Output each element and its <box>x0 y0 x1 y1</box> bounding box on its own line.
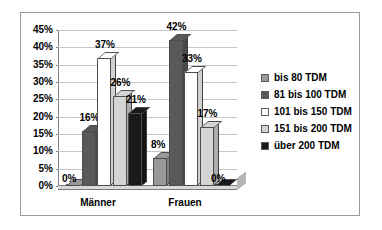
chart-frame: 0%5%10%15%20%25%30%35%40%45% 0%16%37%26%… <box>20 12 360 216</box>
bar[interactable] <box>153 158 167 186</box>
bar-value-label: 21% <box>126 95 146 105</box>
y-axis-tick-label: 35% <box>33 60 53 70</box>
bar-slot: 0% <box>215 30 229 186</box>
legend-swatch-icon <box>261 91 269 99</box>
y-axis-tick-label: 30% <box>33 77 53 87</box>
y-axis-tick-label: 0% <box>39 181 53 191</box>
y-axis: 0%5%10%15%20%25%30%35%40%45% <box>21 23 56 193</box>
bar-group: 0%16%37%26%21% <box>66 30 146 186</box>
bar-slot: 8% <box>153 30 167 186</box>
chart-floor-side <box>237 171 246 190</box>
bar[interactable] <box>184 72 198 186</box>
y-axis-tick-label: 5% <box>39 164 53 174</box>
x-axis-category-label: Frauen <box>145 197 225 208</box>
y-axis-tick-label: 40% <box>33 42 53 52</box>
bar[interactable] <box>97 58 111 186</box>
bar[interactable] <box>169 40 183 186</box>
bar[interactable] <box>113 96 127 186</box>
legend-item[interactable]: 101 bis 150 TDM <box>261 105 356 122</box>
bar-slot: 21% <box>128 30 142 186</box>
bar-value-label: 0% <box>62 174 76 184</box>
y-axis-tick-label: 20% <box>33 112 53 122</box>
bar-value-label: 0% <box>211 174 225 184</box>
bar-slot: 17% <box>200 30 214 186</box>
bar-slot: 42% <box>169 30 183 186</box>
legend-swatch-icon <box>261 142 269 150</box>
x-axis-category-label: Männer <box>58 197 138 208</box>
bar-slot: 26% <box>113 30 127 186</box>
legend-label: 151 bis 200 TDM <box>274 122 352 135</box>
legend-swatch-icon <box>261 74 269 82</box>
y-axis-tick-label: 15% <box>33 129 53 139</box>
plot-area: 0%16%37%26%21%8%42%33%17%0% <box>58 30 237 186</box>
chart-floor <box>58 186 237 193</box>
legend-item[interactable]: bis 80 TDM <box>261 71 356 88</box>
legend-item[interactable]: 151 bis 200 TDM <box>261 122 356 139</box>
bar-slot: 33% <box>184 30 198 186</box>
legend-swatch-icon <box>261 108 269 116</box>
bar[interactable] <box>128 113 142 186</box>
legend-item[interactable]: 81 bis 100 TDM <box>261 88 356 105</box>
bar-slot: 16% <box>82 30 96 186</box>
bar[interactable] <box>82 131 96 186</box>
y-axis-tick-label: 25% <box>33 94 53 104</box>
bar-slot: 37% <box>97 30 111 186</box>
bar-group: 8%42%33%17%0% <box>153 30 233 186</box>
y-axis-tick-label: 45% <box>33 25 53 35</box>
legend-swatch-icon <box>261 125 269 133</box>
legend-item[interactable]: über 200 TDM <box>261 139 356 156</box>
bar-value-label: 8% <box>151 140 165 150</box>
chart-legend: bis 80 TDM81 bis 100 TDM101 bis 150 TDM1… <box>261 71 356 156</box>
legend-label: bis 80 TDM <box>274 71 327 84</box>
y-axis-tick-label: 10% <box>33 146 53 156</box>
legend-label: über 200 TDM <box>274 139 340 152</box>
bar-slot: 0% <box>66 30 80 186</box>
legend-label: 101 bis 150 TDM <box>274 105 352 118</box>
chart-floor-front <box>58 186 237 190</box>
legend-label: 81 bis 100 TDM <box>274 88 346 101</box>
